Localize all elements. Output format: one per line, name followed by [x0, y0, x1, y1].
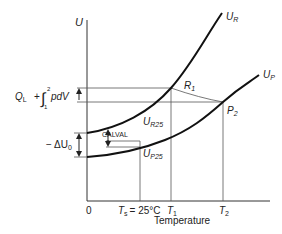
- r1-label: R1: [184, 80, 195, 92]
- svg-text:1: 1: [44, 104, 48, 110]
- calval-label: CALVAL: [102, 131, 128, 138]
- svg-text:QL: QL: [15, 91, 27, 103]
- svg-text:pdV: pdV: [50, 91, 70, 102]
- r1-p2-path: [171, 88, 223, 102]
- heat-work-expression: QL + ∫ 2 1 pdV: [15, 86, 70, 110]
- up25-label: UP25: [143, 148, 163, 160]
- energy-temperature-diagram: U UR UP R1 P2 UR25 UP25 CALVAL QL + ∫ 2 …: [0, 0, 282, 234]
- ur-curve: [87, 13, 222, 133]
- p2-label: P2: [227, 105, 238, 117]
- ur-curve-label: UR: [226, 11, 238, 23]
- svg-text:+: +: [34, 91, 40, 102]
- delta-u-label: − ΔU0: [46, 139, 72, 151]
- ur25-label: UR25: [143, 116, 163, 128]
- origin-label: 0: [86, 205, 92, 216]
- y-axis-label: U: [75, 16, 83, 28]
- t2-tick-label: T2: [219, 205, 229, 217]
- x-axis-label: Temperature: [154, 215, 211, 226]
- up-curve-label: UP: [263, 69, 275, 81]
